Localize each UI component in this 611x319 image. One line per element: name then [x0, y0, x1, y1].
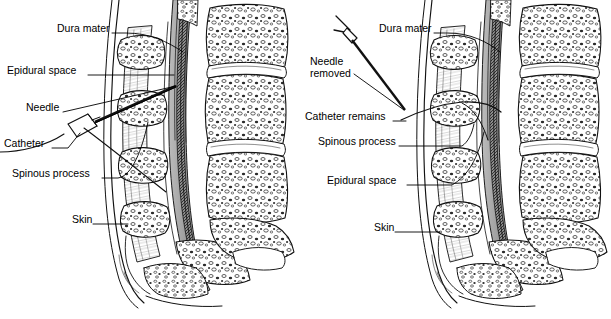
epidural-technique-figure: Dura mater Epidural space Needle Cathete…: [0, 0, 611, 319]
label-catheter-left: Catheter: [4, 138, 44, 150]
label-spinous-process-right: Spinous process: [318, 136, 396, 148]
panel-left-graphic: [0, 0, 294, 308]
label-skin-left: Skin: [72, 214, 92, 226]
label-epidural-space-right: Epidural space: [327, 175, 396, 187]
anatomy-illustration: [0, 0, 611, 319]
label-spinous-process-left: Spinous process: [12, 168, 90, 180]
label-skin-right: Skin: [374, 222, 394, 234]
leader-needle-removed-right: [354, 74, 404, 110]
label-catheter-remains-right: Catheter remains: [305, 111, 386, 123]
label-dura-mater-right: Dura mater: [379, 23, 432, 35]
label-epidural-space-left: Epidural space: [7, 65, 76, 77]
label-needle-left: Needle: [26, 102, 59, 114]
label-needle-removed-right: Needle removed: [310, 56, 351, 79]
panel-right-graphic: [334, 0, 607, 308]
label-dura-mater-left: Dura mater: [57, 23, 110, 35]
